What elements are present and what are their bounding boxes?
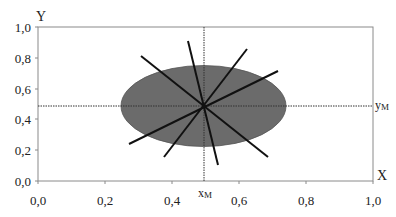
y-tick-label: 0,2 — [15, 143, 31, 158]
x-axis-label: X — [377, 168, 387, 183]
x-m-label: xM — [198, 186, 212, 200]
y-tick-label: 0,6 — [15, 82, 32, 97]
x-tick-label: 0,6 — [231, 193, 248, 208]
y-axis-label: Y — [36, 9, 46, 24]
y-m-label: yM — [375, 98, 389, 112]
x-tick-label: 0,8 — [298, 193, 314, 208]
y-tick-label: 0,4 — [15, 112, 32, 127]
ellipse-diagram: 1,0 0,8 0,6 0,4 0,2 0,0 0,0 0,2 0,4 0,6 … — [0, 0, 396, 217]
center-point — [202, 104, 206, 108]
x-tick-label: 1,0 — [365, 193, 381, 208]
y-tick-label: 0,0 — [15, 174, 31, 189]
x-tick-label: 0,0 — [30, 193, 46, 208]
x-tick-label: 0,2 — [97, 193, 113, 208]
y-tick-label: 1,0 — [15, 20, 31, 35]
y-tick-label: 0,8 — [15, 51, 31, 66]
x-tick-label: 0,4 — [164, 193, 181, 208]
